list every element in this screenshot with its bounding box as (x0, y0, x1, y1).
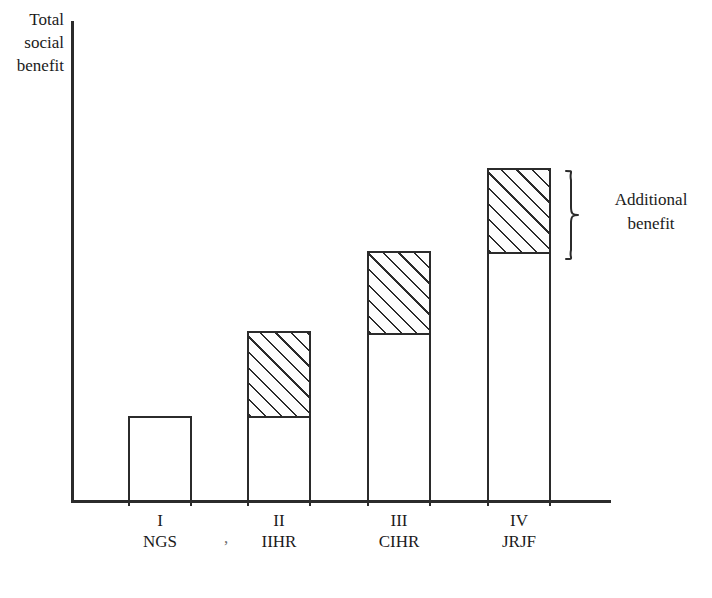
x-axis-label-IV: IV JRJF (469, 510, 569, 552)
scan-artifact-comma: , (224, 528, 228, 548)
bar-II (247, 331, 311, 506)
x-axis-label-III: III CIHR (349, 510, 449, 552)
bar-IV-base-segment (487, 252, 551, 502)
x-axis-label-II: II IIHR (229, 510, 329, 552)
bar-II-base-segment (247, 416, 311, 502)
bar-I-left-rail (128, 416, 130, 506)
y-axis-title: Total social benefit (0, 8, 64, 77)
bar-chart-figure: Total social benefit I NGS II IIHR III C… (0, 0, 712, 598)
y-axis-line (71, 21, 74, 503)
bar-I (128, 416, 192, 506)
bar-II-additional-segment (247, 331, 311, 418)
bar-III-left-rail (367, 251, 369, 506)
bar-IV-additional-segment (487, 168, 551, 254)
bar-II-left-rail (247, 331, 249, 506)
bar-IV (487, 168, 551, 506)
bar-IV-left-rail (487, 168, 489, 506)
bar-III-right-rail (429, 251, 431, 506)
bar-IV-right-rail (549, 168, 551, 506)
bar-III-additional-segment (367, 251, 431, 335)
x-axis-label-I: I NGS (110, 510, 210, 552)
bar-II-right-rail (309, 331, 311, 506)
bar-I-base-segment (128, 416, 192, 502)
bar-I-right-rail (190, 416, 192, 506)
bar-III-base-segment (367, 333, 431, 502)
bar-III (367, 251, 431, 506)
curly-brace-icon (562, 170, 582, 260)
annotation-additional-benefit: Additional benefit (590, 188, 712, 236)
